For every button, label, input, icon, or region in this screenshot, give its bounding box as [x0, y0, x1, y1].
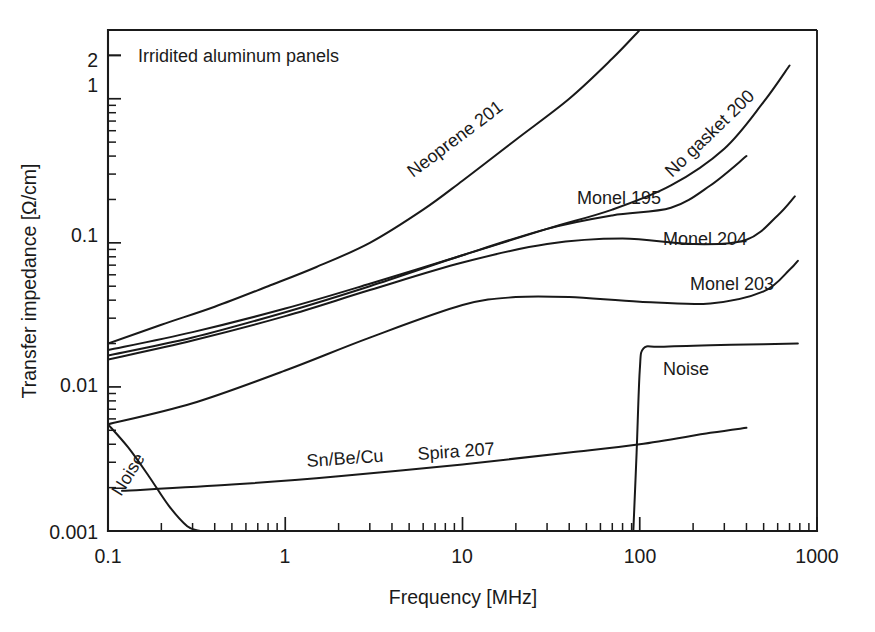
x-tick-label-1000: 1000: [795, 545, 839, 567]
y-axis-title: Transfer impedance [Ω/cm]: [18, 164, 40, 399]
series-label-monel-195: Monel 195: [577, 188, 661, 208]
series-label-sn-be-cu: Sn/Be/Cu: [306, 446, 384, 471]
series-labels: Neoprene 201No gasket 200Monel 195Monel …: [107, 86, 774, 499]
chart-page: 2 1 0.1 0.01 0.001 0.1 1 10 100 1000 Tra…: [0, 0, 875, 632]
transfer-impedance-chart: 2 1 0.1 0.01 0.001 0.1 1 10 100 1000 Tra…: [0, 0, 875, 632]
x-tick-label-0point1: 0.1: [94, 545, 121, 567]
curve-monel-195: [108, 156, 746, 355]
y-tick-label-0point01: 0.01: [60, 374, 98, 396]
curve-noise-high-frequency: [633, 344, 798, 531]
series-label-monel-204: Monel 204: [663, 229, 747, 249]
series-label-noise: Noise: [663, 359, 709, 379]
x-tick-label-1: 1: [280, 545, 291, 567]
x-tick-label-100: 100: [624, 545, 657, 567]
x-axis-ticks: [108, 517, 817, 531]
y-tick-labels: 2 1 0.1 0.01 0.001: [49, 49, 98, 543]
y-tick-label-0point1: 0.1: [71, 224, 98, 246]
series-label-neoprene-201: Neoprene 201: [403, 97, 506, 182]
series-label-no-gasket-200: No gasket 200: [661, 86, 758, 181]
plot-title: Irridited aluminum panels: [138, 46, 339, 66]
series-label-monel-203: Monel 203: [690, 274, 774, 294]
y-tick-label-2: 2: [87, 49, 98, 71]
series-label-spira-207: Spira 207: [417, 439, 495, 464]
x-axis-title: Frequency [MHz]: [389, 586, 537, 608]
y-tick-label-0point001: 0.001: [49, 521, 98, 543]
x-tick-label-10: 10: [451, 545, 473, 567]
series-label-noise: Noise: [107, 449, 148, 499]
y-axis-ticks: [108, 30, 121, 531]
y-tick-label-1: 1: [87, 74, 98, 96]
x-tick-labels: 0.1 1 10 100 1000: [94, 545, 838, 567]
